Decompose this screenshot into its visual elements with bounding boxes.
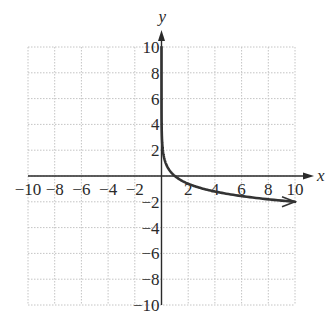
y-tick-label: 8: [151, 64, 160, 83]
y-tick-label: −4: [141, 219, 160, 238]
graph-plot: −10−8−6−4−2246810108642−2−4−6−8−10 x y: [0, 0, 326, 317]
x-tick-label: −8: [46, 180, 64, 199]
y-axis-label: y: [157, 7, 167, 26]
x-tick-label: 8: [264, 180, 273, 199]
y-tick-label: 6: [151, 90, 160, 109]
y-tick-label: 10: [143, 38, 160, 57]
curve: [162, 47, 296, 207]
y-tick-label: −8: [141, 270, 159, 289]
x-axis-label: x: [316, 166, 325, 185]
x-axis-arrow-icon: [303, 173, 314, 180]
x-tick-label: −10: [15, 180, 42, 199]
y-tick-label: 2: [151, 141, 160, 160]
x-tick-label: 4: [211, 180, 220, 199]
y-tick-label: 4: [151, 115, 160, 134]
y-tick-label: −6: [141, 244, 159, 263]
x-tick-label: −6: [72, 180, 90, 199]
x-tick-label: −4: [99, 180, 118, 199]
y-tick-label: −2: [141, 193, 159, 212]
y-tick-label: −10: [133, 296, 160, 315]
axes: [28, 30, 314, 305]
x-tick-label: 10: [287, 180, 304, 199]
